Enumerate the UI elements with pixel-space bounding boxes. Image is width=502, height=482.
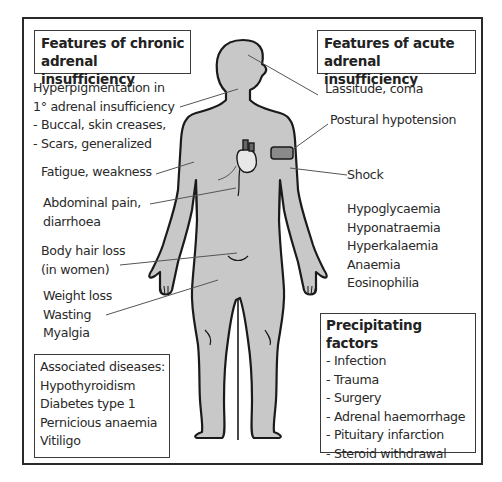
weight-line-2: Wasting: [43, 306, 112, 325]
bp-cuff: [271, 147, 293, 159]
fatigue-label: Fatigue, weakness: [41, 163, 152, 182]
abdominal-line-2: diarrhoea: [43, 213, 141, 232]
hyperpigmentation-line-4: - Scars, generalized: [33, 135, 175, 154]
lab-finding-item: Anaemia: [347, 256, 441, 275]
precipitating-factors-box: Precipitating factors - Infection - Trau…: [320, 313, 476, 453]
associated-diseases-title: Associated diseases:: [40, 358, 169, 377]
shock-label: Shock: [347, 166, 383, 185]
lab-finding-item: Hyperkalaemia: [347, 237, 441, 256]
acute-title-line-1: Features of acute: [324, 34, 475, 52]
associated-disease-item: Pernicious anaemia: [40, 414, 169, 433]
lab-finding-item: Hypoglycaemia: [347, 200, 441, 219]
abdominal-line-1: Abdominal pain,: [43, 194, 141, 213]
associated-disease-item: Hypothyroidism: [40, 377, 169, 396]
precipitating-factor-item: - Pituitary infarction: [326, 426, 475, 445]
weight-line-1: Weight loss: [43, 287, 112, 306]
precipitating-factor-item: - Steroid withdrawal: [326, 445, 475, 464]
lab-finding-item: Eosinophilia: [347, 274, 441, 293]
hyperpigmentation-line-1: Hyperpigmentation in: [33, 79, 175, 98]
hyperpigmentation-line-3: - Buccal, skin creases,: [33, 116, 175, 135]
precipitating-factor-item: - Adrenal haemorrhage: [326, 408, 475, 427]
hyperpigmentation-label: Hyperpigmentation in 1° adrenal insuffic…: [33, 79, 175, 153]
postural-hypotension-label: Postural hypotension: [330, 111, 456, 130]
hair-loss-line-2: (in women): [41, 261, 125, 280]
associated-disease-item: Diabetes type 1: [40, 395, 169, 414]
chronic-title-line-1: Features of chronic: [41, 34, 190, 52]
chronic-features-title-box: Features of chronic adrenal insufficienc…: [34, 30, 191, 74]
associated-disease-item: Vitiligo: [40, 432, 169, 451]
precipitating-factor-item: - Surgery: [326, 389, 475, 408]
lab-finding-item: Hyponatraemia: [347, 219, 441, 238]
precipitating-factors-title: Precipitating factors: [326, 316, 475, 352]
precipitating-factor-item: - Trauma: [326, 371, 475, 390]
hair-loss-line-1: Body hair loss: [41, 242, 125, 261]
weight-loss-label: Weight loss Wasting Myalgia: [43, 287, 112, 343]
associated-diseases-box: Associated diseases: Hypothyroidism Diab…: [34, 354, 170, 458]
lab-findings-list: Hypoglycaemia Hyponatraemia Hyperkalaemi…: [347, 200, 441, 293]
acute-features-title-box: Features of acute adrenal insufficiency: [317, 30, 476, 74]
abdominal-label: Abdominal pain, diarrhoea: [43, 194, 141, 231]
precipitating-factor-item: - Infection: [326, 352, 475, 371]
hyperpigmentation-line-2: 1° adrenal insufficiency: [33, 98, 175, 117]
hair-loss-label: Body hair loss (in women): [41, 242, 125, 279]
weight-line-3: Myalgia: [43, 324, 112, 343]
lassitude-label: Lassitude, coma: [325, 80, 423, 99]
